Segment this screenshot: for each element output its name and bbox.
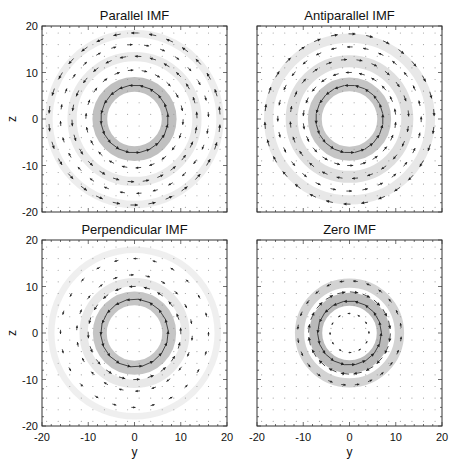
vector-dot — [115, 44, 116, 45]
vector-dot — [330, 409, 331, 410]
vector-dot — [261, 363, 262, 364]
vector-dot — [115, 270, 116, 271]
vector-dot — [208, 67, 209, 68]
vector-dot — [423, 328, 424, 329]
vector-dot — [196, 44, 197, 45]
vector-dot — [423, 56, 424, 57]
vector-dot — [411, 44, 412, 45]
panel-zero: Zero IMF-20-1001020y — [249, 222, 448, 459]
vector-dot — [46, 56, 47, 57]
vector-dot — [330, 246, 331, 247]
vector-dot — [319, 172, 320, 173]
vector-dot — [150, 79, 151, 80]
vector-dot — [319, 160, 320, 161]
vector-dot — [173, 305, 174, 306]
vector-dot — [423, 421, 424, 422]
vector-dot — [296, 409, 297, 410]
vector-dot — [127, 91, 128, 92]
vector-dot — [365, 246, 366, 247]
vector-dot — [104, 270, 105, 271]
vector-dot — [220, 374, 221, 375]
vector-dot — [92, 91, 93, 92]
vector-dot — [139, 79, 140, 80]
vector-dot — [423, 91, 424, 92]
vector-dot — [365, 114, 366, 115]
vector-dot — [104, 32, 105, 33]
vector-dot — [273, 386, 274, 387]
vector-dot — [150, 281, 151, 282]
vector-dot — [104, 184, 105, 185]
y-tick-label: 0 — [32, 113, 38, 125]
vector-dot — [423, 351, 424, 352]
vector-dot — [342, 258, 343, 259]
magnitude-ring — [316, 299, 384, 367]
vector-dot — [354, 316, 355, 317]
vector-dot — [115, 328, 116, 329]
vector-dot — [58, 305, 59, 306]
vector-dot — [58, 339, 59, 340]
vector-dot — [208, 102, 209, 103]
vector-dot — [92, 328, 93, 329]
arrow-head — [349, 352, 351, 354]
vector-dot — [435, 328, 436, 329]
vector-dot — [196, 125, 197, 126]
vector-dot — [220, 44, 221, 45]
vector-dot — [400, 56, 401, 57]
vector-dot — [104, 374, 105, 375]
vector-dot — [104, 56, 105, 57]
vector-dot — [127, 195, 128, 196]
vector-dot — [81, 374, 82, 375]
vector-dot — [162, 195, 163, 196]
vector-dot — [173, 351, 174, 352]
vector-dot — [185, 184, 186, 185]
vector-dot — [377, 328, 378, 329]
vector-dot — [388, 409, 389, 410]
vector-dot — [81, 172, 82, 173]
vector-dot — [104, 421, 105, 422]
vector-dot — [273, 56, 274, 57]
vector-dot — [284, 316, 285, 317]
vector-dot — [81, 67, 82, 68]
vector-dot — [307, 207, 308, 208]
vector-dot — [162, 44, 163, 45]
vector-dot — [185, 316, 186, 317]
vector-dot — [46, 386, 47, 387]
vector-dot — [261, 270, 262, 271]
vector-dot — [330, 258, 331, 259]
vector-dot — [139, 374, 140, 375]
vector-dot — [81, 398, 82, 399]
vector-dot — [400, 125, 401, 126]
arrow-head — [136, 192, 139, 194]
vector-dot — [220, 79, 221, 80]
vector-dot — [273, 328, 274, 329]
vector-dot — [388, 398, 389, 399]
vector-dot — [330, 114, 331, 115]
vector-dot — [435, 32, 436, 33]
vector-dot — [307, 246, 308, 247]
panel-title: Perpendicular IMF — [81, 222, 187, 237]
vector-dot — [92, 409, 93, 410]
vector-dot — [435, 258, 436, 259]
vector-dot — [342, 316, 343, 317]
x-tick-label: 0 — [131, 431, 137, 443]
vector-dot — [92, 374, 93, 375]
vector-dot — [365, 258, 366, 259]
x-tick-label: -10 — [295, 431, 311, 443]
vector-dot — [365, 374, 366, 375]
vector-dot — [330, 281, 331, 282]
vector-dot — [307, 102, 308, 103]
arrow-head — [130, 43, 133, 45]
vector-dot — [319, 386, 320, 387]
vector-dot — [400, 102, 401, 103]
vector-dot — [92, 44, 93, 45]
vector-dot — [81, 363, 82, 364]
vector-dot — [411, 184, 412, 185]
vector-dot — [173, 79, 174, 80]
vector-dot — [400, 386, 401, 387]
vector-dot — [150, 409, 151, 410]
vector-dot — [284, 386, 285, 387]
vector-dot — [365, 172, 366, 173]
vector-dot — [115, 258, 116, 259]
vector-dot — [377, 421, 378, 422]
vector-dot — [104, 91, 105, 92]
